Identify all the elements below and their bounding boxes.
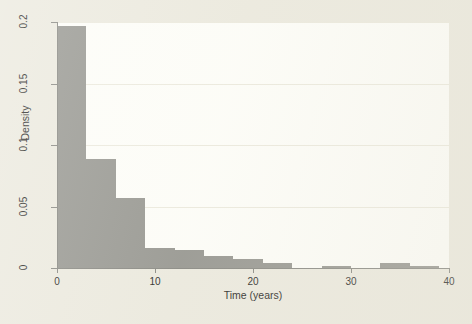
histogram-bar <box>233 259 262 268</box>
gridline <box>57 84 449 85</box>
x-axis-title: Time (years) <box>57 289 449 301</box>
y-axis-tick <box>51 84 57 85</box>
plot-area <box>57 22 449 268</box>
x-axis-tick-label: 30 <box>331 276 371 287</box>
x-axis-tick <box>253 268 254 273</box>
histogram-bar <box>145 248 174 268</box>
histogram-bar <box>86 159 115 268</box>
y-axis-tick <box>51 207 57 208</box>
y-axis-title-text: Density <box>18 105 30 140</box>
y-axis-line <box>57 22 58 269</box>
gridline <box>57 22 449 23</box>
y-axis-tick-label: 0 <box>0 262 48 274</box>
x-axis-tick <box>449 268 450 273</box>
x-axis-tick-label: 0 <box>37 276 77 287</box>
y-axis-title: Density <box>17 0 31 246</box>
x-axis-tick <box>351 268 352 273</box>
x-axis-title-text: Time (years) <box>224 289 283 301</box>
histogram-bar <box>57 26 86 268</box>
x-axis-tick-label: 20 <box>233 276 273 287</box>
y-axis-tick <box>51 145 57 146</box>
histogram-figure: 00.050.10.150.2 010203040 Density Time (… <box>0 0 472 324</box>
x-axis-tick <box>57 268 58 273</box>
x-axis-tick <box>155 268 156 273</box>
histogram-bar <box>116 198 145 268</box>
x-axis-tick-label: 40 <box>429 276 469 287</box>
x-axis-tick-label: 10 <box>135 276 175 287</box>
histogram-bar <box>175 250 204 268</box>
y-axis-tick <box>51 22 57 23</box>
gridline <box>57 145 449 146</box>
histogram-bar <box>204 256 233 268</box>
